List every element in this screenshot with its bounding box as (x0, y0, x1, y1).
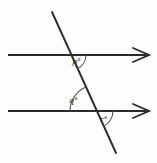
angle-label-r: r° (100, 116, 108, 124)
angle-label-q: q° (69, 97, 78, 105)
angle-label-p: p° (72, 58, 81, 66)
geometry-figure: p° q° r° (0, 0, 157, 163)
diagram-canvas (0, 0, 157, 163)
transversal-line (52, 12, 116, 153)
